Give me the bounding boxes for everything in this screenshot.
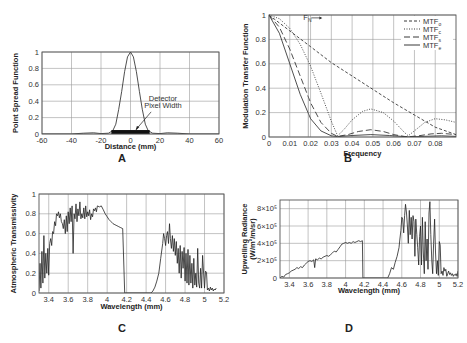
x-tick-label: 3.8 <box>322 280 332 289</box>
x-tick-label: 0 <box>267 139 271 148</box>
y-tick-label: 0.4 <box>256 84 266 93</box>
x-axis-label: Distance (mm) <box>105 142 157 151</box>
y-tick-label: 0 <box>32 289 36 298</box>
x-tick-label: 5.2 <box>453 280 463 289</box>
figure-canvas: -60-40-20020406000.20.40.60.81Distance (… <box>0 0 467 343</box>
x-tick-label: 5.2 <box>219 295 229 304</box>
series-group <box>280 202 458 278</box>
x-tick-label: 40 <box>185 136 193 145</box>
y-tick-label: 0.2 <box>256 108 266 117</box>
x-tick-label: 3.4 <box>284 280 294 289</box>
panel-label-a: A <box>118 152 126 164</box>
y-axis-label: Modulation Transfer Function <box>241 23 250 129</box>
x-axis-label: Wavelength (mm) <box>100 302 163 311</box>
y-tick-label: 0 <box>35 130 39 139</box>
x-tick-label: 5 <box>437 280 441 289</box>
x-tick-label: 0.08 <box>428 139 443 148</box>
y-tick-label: 2×10⁵ <box>257 256 277 265</box>
x-tick-label: 20 <box>156 136 164 145</box>
nyquist-annotation: FN <box>303 13 312 23</box>
y-tick-label: 0.6 <box>29 80 39 89</box>
chart-panel-d: 3.43.63.844.24.44.64.855.202×10⁵4×10⁵6×1… <box>240 200 463 295</box>
y-tick-label: 1 <box>32 190 36 199</box>
x-tick-label: 0.03 <box>324 139 339 148</box>
y-tick-label: 8×10⁵ <box>257 204 277 213</box>
panel-label-d: D <box>345 322 353 334</box>
x-tick-label: 0.02 <box>303 139 318 148</box>
x-tick-label: 0.05 <box>366 139 381 148</box>
chart-panel-c: 3.43.63.844.24.44.64.855.200.20.40.60.81… <box>9 190 229 312</box>
y-tick-label: 0.2 <box>26 269 36 278</box>
x-tick-label: 3.4 <box>44 295 54 304</box>
y-tick-label: 0 <box>262 133 266 142</box>
gridlines <box>42 52 219 134</box>
y-tick-label: 6×10⁵ <box>257 222 277 231</box>
y-tick-label: 4×10⁵ <box>257 239 277 248</box>
x-tick-label: 4.8 <box>415 280 425 289</box>
y-tick-label: 1 <box>35 48 39 57</box>
y-tick-label: 0.2 <box>29 113 39 122</box>
y-tick-label: 0.8 <box>26 209 36 218</box>
y-tick-label: 0.8 <box>256 35 266 44</box>
x-tick-label: 4.8 <box>180 295 190 304</box>
x-tick-label: 0.07 <box>407 139 422 148</box>
x-tick-label: 3.6 <box>63 295 73 304</box>
y-tick-label: 0 <box>273 274 277 283</box>
x-tick-label: 0.06 <box>386 139 401 148</box>
panel-label-b: B <box>344 152 352 164</box>
y-tick-label: 0.8 <box>29 64 39 73</box>
chart-panel-a: -60-40-20020406000.20.40.60.81Distance (… <box>11 48 223 152</box>
y-tick-label: 0.4 <box>26 249 36 258</box>
legend: MTFoMTFcMTFsMTFe <box>401 16 453 51</box>
x-tick-label: -40 <box>66 136 77 145</box>
x-tick-label: 0.04 <box>345 139 360 148</box>
y-tick-label: 0.6 <box>256 59 266 68</box>
x-tick-label: 0.01 <box>282 139 297 148</box>
x-tick-label: 3.8 <box>82 295 92 304</box>
y-tick-label: 0.6 <box>26 229 36 238</box>
x-axis-label: Wavelength (mm) <box>338 286 401 295</box>
y-axis-unit-label: (W/m²/m/sr) <box>248 218 257 260</box>
series-line-radiance <box>280 202 458 278</box>
y-tick-label: 0.4 <box>29 97 39 106</box>
detector-pixel-bar <box>111 130 149 134</box>
chart-panel-b: 00.010.020.030.040.050.060.070.0800.20.4… <box>241 11 456 159</box>
panel-label-c: C <box>118 322 126 334</box>
x-tick-label: 60 <box>215 136 223 145</box>
annotation-arrow <box>136 112 151 129</box>
y-axis-label: Atmospheric Transmissivity <box>9 193 18 294</box>
x-tick-label: 5 <box>202 295 206 304</box>
x-tick-label: 3.6 <box>303 280 313 289</box>
y-tick-label: 1 <box>262 11 266 20</box>
series-group <box>39 202 216 293</box>
series-line-transmissivity <box>39 202 216 293</box>
y-axis-label: Point Spread Function <box>11 53 20 133</box>
annotation-text: Pixel Width <box>144 101 182 110</box>
